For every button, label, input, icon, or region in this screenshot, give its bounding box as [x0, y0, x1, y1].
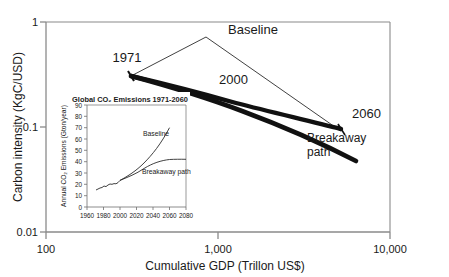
inset-y-tick-60: 60	[75, 136, 83, 143]
inset-y-tick-70: 70	[75, 124, 83, 131]
carbon-intensity-chart: 1 0.1 0.01 100 1,000 10,000 Carbon inten…	[0, 0, 449, 277]
inset-y-tick-40: 40	[75, 158, 83, 165]
y-axis-title: Carbon intensity (KgC/USD)	[11, 52, 25, 202]
inset-y-tick-80: 80	[75, 113, 83, 120]
y-tick-label-0point01: 0.01	[17, 226, 38, 238]
inset-y-tick-30: 30	[75, 170, 83, 177]
inset-y-axis-title: Annual CO₂ Emissions (Gton/year)	[60, 105, 68, 207]
inset-label-baseline: Baseline	[143, 130, 169, 137]
y-tick-label-1: 1	[32, 16, 38, 28]
chart-figure: 1 0.1 0.01 100 1,000 10,000 Carbon inten…	[0, 0, 449, 277]
inset-x-tick-2040: 2040	[146, 212, 161, 219]
inset-x-tick-2080: 2080	[179, 212, 194, 219]
inset-x-tick-2020: 2020	[129, 212, 144, 219]
label-2000: 2000	[219, 72, 248, 87]
inset-y-tick-10: 10	[75, 192, 83, 199]
inset-y-tick-50: 50	[75, 147, 83, 154]
label-breakaway-line1: Breakaway	[307, 131, 366, 145]
inset-title: Global CO₂ Emissions 1971-2060	[72, 95, 188, 104]
inset-y-tick-20: 20	[75, 181, 83, 188]
label-breakaway-line2: path	[307, 145, 330, 159]
x-tick-label-10000: 10,000	[373, 243, 407, 255]
label-1971: 1971	[113, 50, 142, 65]
inset-x-tick-2000: 2000	[113, 212, 128, 219]
inset-x-tick-2060: 2060	[162, 212, 177, 219]
inset-x-tick-1960: 1960	[80, 212, 95, 219]
inset-label-breakaway: Breakaway path	[142, 168, 191, 176]
x-tick-label-1000: 1,000	[204, 243, 232, 255]
inset-x-tick-1980: 1980	[96, 212, 111, 219]
x-tick-label-100: 100	[37, 243, 55, 255]
inset-y-tick-0: 0	[78, 204, 82, 211]
label-baseline: Baseline	[228, 22, 278, 37]
label-2060: 2060	[352, 106, 381, 121]
inset-y-tick-90: 90	[75, 102, 83, 109]
x-axis-title: Cumulative GDP (Trillon US$)	[145, 259, 304, 273]
inset-chart: Global CO₂ Emissions 1971-2060 90 80 70 …	[60, 92, 194, 219]
